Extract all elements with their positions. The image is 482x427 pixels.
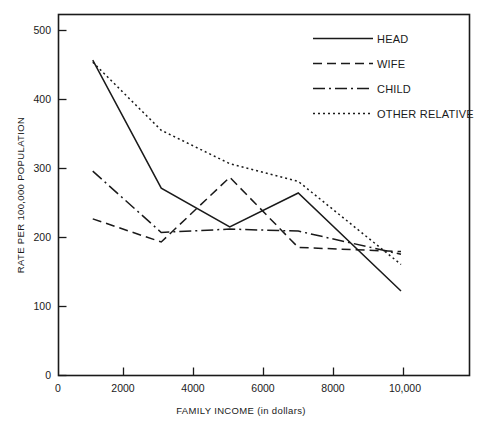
legend-label-head: HEAD bbox=[377, 33, 408, 45]
series-line-child bbox=[93, 171, 401, 254]
data-series-group bbox=[93, 60, 401, 291]
x-tick-label-10000: 10,000 bbox=[389, 382, 421, 394]
x-axis-title: FAMILY INCOME (in dollars) bbox=[176, 405, 306, 416]
x-axis-ticks bbox=[124, 368, 404, 376]
y-tick-label-400: 400 bbox=[33, 93, 51, 105]
x-axis-tick-labels: 0 2000 4000 6000 8000 10,000 bbox=[55, 382, 421, 394]
y-tick-label-0: 0 bbox=[45, 369, 51, 381]
legend-label-child: CHILD bbox=[377, 83, 411, 95]
legend: HEAD WIFE CHILD OTHER RELATIVE bbox=[313, 33, 474, 120]
series-line-head bbox=[93, 60, 401, 291]
chart-container: 500 400 300 200 100 0 RATE PER 100,000 P… bbox=[0, 0, 482, 427]
line-chart: 500 400 300 200 100 0 RATE PER 100,000 P… bbox=[0, 0, 482, 427]
plot-frame bbox=[59, 15, 470, 376]
y-tick-label-200: 200 bbox=[33, 231, 51, 243]
y-axis-ticks bbox=[59, 31, 67, 376]
legend-label-wife: WIFE bbox=[377, 58, 405, 70]
series-line-wife bbox=[93, 177, 401, 251]
x-tick-label-8000: 8000 bbox=[321, 382, 345, 394]
y-axis-title: RATE PER 100,000 POPULATION bbox=[15, 117, 26, 273]
y-tick-label-100: 100 bbox=[33, 300, 51, 312]
x-tick-label-2000: 2000 bbox=[111, 382, 135, 394]
legend-label-other-relative: OTHER RELATIVE bbox=[377, 108, 474, 120]
y-tick-label-300: 300 bbox=[33, 162, 51, 174]
x-tick-label-0: 0 bbox=[55, 382, 61, 394]
y-tick-label-500: 500 bbox=[33, 24, 51, 36]
x-tick-label-4000: 4000 bbox=[181, 382, 205, 394]
y-axis-tick-labels: 500 400 300 200 100 0 bbox=[33, 24, 51, 381]
x-tick-label-6000: 6000 bbox=[251, 382, 275, 394]
